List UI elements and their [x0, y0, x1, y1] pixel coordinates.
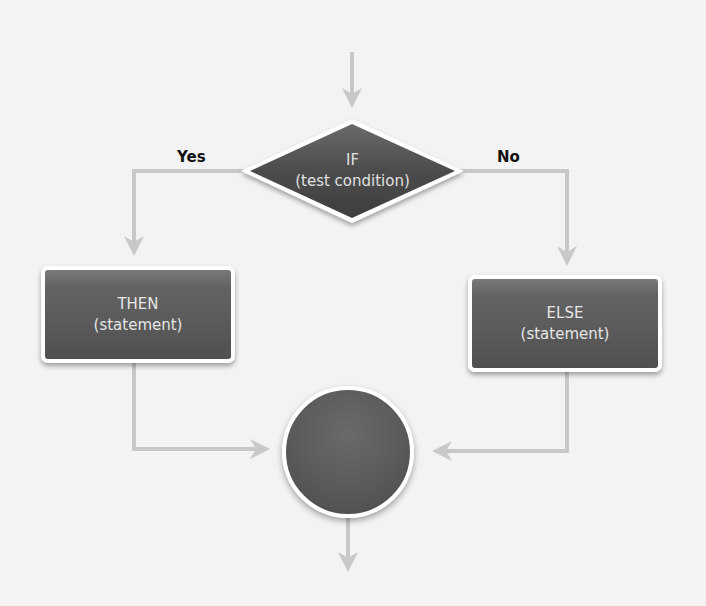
then-box: THEN (statement)	[41, 266, 235, 363]
decision-condition: (test condition)	[295, 171, 410, 192]
then-statement: (statement)	[94, 315, 183, 336]
else-keyword: ELSE	[547, 303, 584, 324]
yes-label: Yes	[177, 148, 206, 166]
else-to-merge-connector	[436, 372, 567, 451]
else-box: ELSE (statement)	[468, 275, 662, 372]
decision-text: IF (test condition)	[242, 120, 463, 222]
no-label: No	[497, 148, 520, 166]
decision-keyword: IF	[346, 150, 359, 171]
then-keyword: THEN	[117, 294, 158, 315]
then-to-merge-connector	[134, 362, 266, 449]
yes-connector	[134, 171, 244, 252]
else-statement: (statement)	[521, 324, 610, 345]
merge-node	[282, 386, 414, 518]
no-connector	[461, 171, 567, 262]
